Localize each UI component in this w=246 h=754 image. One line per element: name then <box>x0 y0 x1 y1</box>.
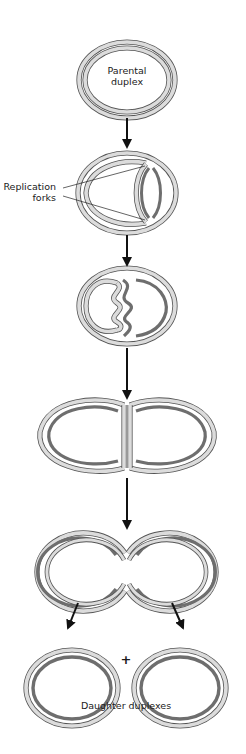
stage-replication-forks: Replication forks <box>3 153 176 233</box>
label-daughter-duplexes: Daughter duplexes <box>81 700 171 711</box>
label-parental-line1: Parental <box>108 65 147 76</box>
dna-replication-diagram: Parental duplex Replication forks <box>0 0 246 754</box>
label-replication: Replication <box>3 181 56 192</box>
label-parental-line2: duplex <box>111 76 143 87</box>
stage-catenated-pair <box>40 400 214 471</box>
stage-supercoiled-intermediate <box>79 268 175 344</box>
stage-parental-duplex: Parental duplex <box>79 42 175 118</box>
plus-sign: + <box>121 652 132 667</box>
label-forks: forks <box>32 192 56 203</box>
daughter-duplex-right <box>134 650 226 726</box>
stage-separating-pair <box>37 533 216 611</box>
stage-daughter-duplexes: + Daughter duplexes <box>26 650 226 726</box>
daughter-duplex-left <box>26 650 118 726</box>
